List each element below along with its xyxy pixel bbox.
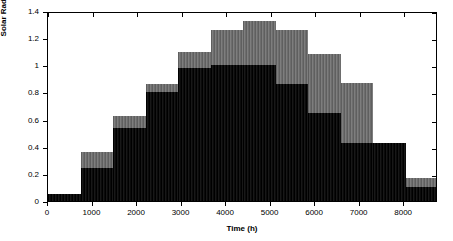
bar-column <box>81 12 114 201</box>
bar-segment-dark <box>81 168 114 201</box>
y-tick-label: 0.6 <box>0 116 39 125</box>
x-tick-mark <box>136 202 137 206</box>
bar-column <box>113 12 146 201</box>
x-tick-label: 7000 <box>337 208 381 217</box>
x-tick-label: 2000 <box>114 208 158 217</box>
bar-segment-dark <box>178 68 211 201</box>
x-tick-label: 5000 <box>248 208 292 217</box>
x-tick-mark <box>92 202 93 206</box>
y-tick-mark <box>43 12 47 13</box>
x-tick-mark <box>403 202 404 206</box>
y-tick-mark-right <box>432 94 436 95</box>
x-axis-label: Time (h) <box>47 224 437 233</box>
bar-segment-dark <box>276 84 309 201</box>
bar-column <box>211 12 244 201</box>
y-tick-label: 1 <box>0 61 39 70</box>
y-tick-mark-right <box>432 176 436 177</box>
x-tick-label: 3000 <box>159 208 203 217</box>
x-tick-mark <box>181 202 182 206</box>
bar-series-group <box>48 13 436 201</box>
x-tick-mark-top <box>360 13 361 17</box>
bar-segment-dark <box>341 143 374 201</box>
x-tick-mark-top <box>271 13 272 17</box>
bar-segment-dark <box>48 194 81 201</box>
y-tick-label: 1.4 <box>0 7 39 16</box>
x-tick-mark <box>270 202 271 206</box>
y-tick-label: 1.2 <box>0 34 39 43</box>
bar-column <box>308 12 341 201</box>
y-tick-mark <box>43 121 47 122</box>
y-tick-label: 0.2 <box>0 170 39 179</box>
bar-column <box>48 12 81 201</box>
x-tick-label: 4000 <box>203 208 247 217</box>
x-tick-label: 1000 <box>70 208 114 217</box>
x-tick-mark-top <box>93 13 94 17</box>
x-tick-mark-top <box>315 13 316 17</box>
bar-column <box>276 12 309 201</box>
x-tick-mark-top <box>226 13 227 17</box>
x-tick-label: 0 <box>25 208 69 217</box>
x-tick-mark <box>47 202 48 206</box>
y-tick-mark <box>43 66 47 67</box>
y-tick-label: 0.8 <box>0 88 39 97</box>
bar-segment-dark <box>406 187 438 201</box>
bar-column <box>243 12 276 201</box>
bar-segment-dark <box>373 143 406 201</box>
x-tick-label: 8000 <box>381 208 425 217</box>
y-tick-label: 0 <box>0 197 39 206</box>
plot-area <box>47 12 437 202</box>
x-tick-mark <box>314 202 315 206</box>
figure: Solar Radiation (kWh/m2) Time (h) 00.20.… <box>0 0 453 241</box>
x-tick-mark <box>225 202 226 206</box>
bar-segment-dark <box>243 65 276 201</box>
y-tick-mark-right <box>432 40 436 41</box>
bar-segment-dark <box>211 65 244 201</box>
y-tick-mark <box>43 175 47 176</box>
bar-segment-dark <box>146 92 179 201</box>
bar-segment-dark <box>113 128 146 201</box>
y-tick-mark-right <box>432 67 436 68</box>
x-tick-mark-top <box>182 13 183 17</box>
bar-column <box>373 12 406 201</box>
x-tick-mark <box>359 202 360 206</box>
x-tick-mark-top <box>48 13 49 17</box>
bar-column <box>146 12 179 201</box>
y-tick-mark-right <box>432 149 436 150</box>
bar-segment-dark <box>308 113 341 201</box>
y-tick-mark-right <box>432 122 436 123</box>
y-tick-mark <box>43 148 47 149</box>
y-tick-mark <box>43 93 47 94</box>
x-tick-mark-top <box>404 13 405 17</box>
x-tick-mark-top <box>137 13 138 17</box>
bar-column <box>178 12 211 201</box>
y-tick-label: 0.4 <box>0 143 39 152</box>
bar-column <box>341 12 374 201</box>
y-tick-mark <box>43 39 47 40</box>
x-tick-label: 6000 <box>292 208 336 217</box>
y-tick-mark-right <box>432 13 436 14</box>
